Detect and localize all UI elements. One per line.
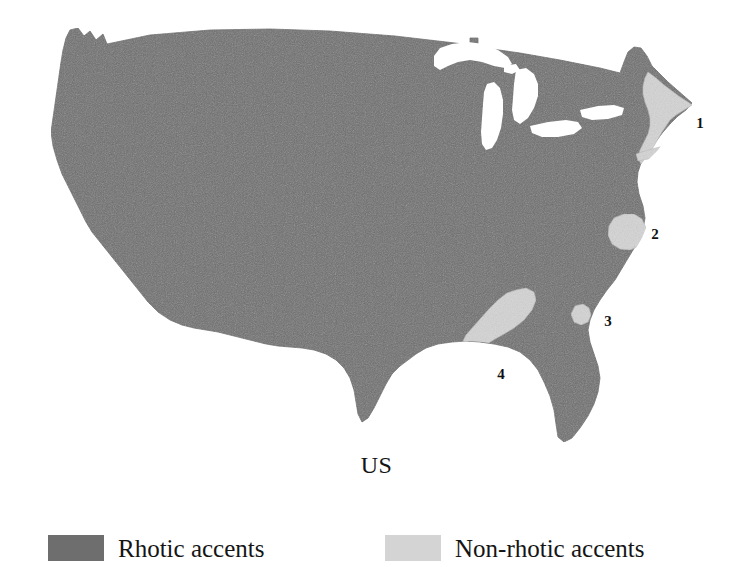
rhotic-landmass-group (51, 28, 692, 442)
legend-label-rhotic: Rhotic accents (118, 536, 264, 561)
us-rhoticity-map: 1 2 3 4 (0, 0, 753, 450)
legend-item-non-rhotic: Non-rhotic accents (385, 528, 645, 567)
rhotic-landmass (51, 28, 692, 442)
map-svg: 1 2 3 4 (0, 0, 753, 450)
non-rhotic-swatch (385, 535, 441, 561)
map-label-3: 3 (604, 313, 612, 329)
map-label-2: 2 (651, 226, 659, 242)
legend-item-rhotic: Rhotic accents (48, 528, 264, 567)
rhotic-swatch (48, 535, 104, 561)
non-rhotic-tidewater-virginia (608, 214, 646, 250)
map-legend: Rhotic accents Non-rhotic accents (0, 528, 753, 567)
map-label-1: 1 (696, 115, 704, 131)
map-caption: US (0, 452, 753, 479)
legend-label-non-rhotic: Non-rhotic accents (455, 536, 645, 561)
figure-page: 1 2 3 4 US Rhotic accents Non-rhotic acc… (0, 0, 753, 567)
map-label-4: 4 (497, 366, 505, 382)
